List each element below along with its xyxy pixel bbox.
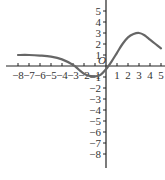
y-tick-label: −2 [89, 82, 101, 94]
y-tick-label: 3 [96, 27, 102, 39]
x-tick-label: 5 [158, 69, 164, 81]
y-tick-label: 5 [96, 5, 102, 17]
y-tick-label: −6 [89, 126, 101, 138]
x-tick-label: 1 [114, 69, 120, 81]
origin-label: O [98, 54, 106, 66]
y-tick-label: −8 [89, 148, 101, 160]
function-graph: −8−7−6−5−4−3−2−112345−8−7−6−5−4−3−2−1123… [0, 0, 165, 180]
y-tick-label: −4 [89, 104, 101, 116]
axes [6, 0, 165, 168]
y-tick-label: −3 [89, 93, 101, 105]
y-tick-label: −7 [89, 137, 101, 149]
x-tick-label: 2 [125, 69, 131, 81]
y-tick-label: 4 [96, 16, 102, 28]
y-tick-label: −5 [89, 115, 101, 127]
x-tick-label: 4 [147, 69, 153, 81]
x-tick-label: 3 [136, 69, 142, 81]
tick-labels: −8−7−6−5−4−3−2−112345−8−7−6−5−4−3−2−1123… [12, 5, 164, 160]
y-tick-label: 2 [96, 38, 102, 50]
